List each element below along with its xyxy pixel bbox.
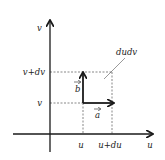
vertical-axis-label: v [37, 23, 42, 33]
area-leader-line [104, 58, 125, 79]
tick-label-u: u [78, 140, 83, 150]
vector-b-label: b [75, 84, 80, 94]
tick-label-v: v [37, 98, 42, 108]
tick-label-v-plus-dv: v+dv [23, 67, 45, 77]
uv-diagram: v v+dv v u u+du u dudv b a [0, 0, 165, 160]
horizontal-axis-label: u [147, 140, 152, 150]
vector-a-label: a [95, 110, 100, 120]
tick-label-u-plus-du: u+du [98, 140, 122, 150]
area-label-dudv: dudv [116, 47, 137, 57]
